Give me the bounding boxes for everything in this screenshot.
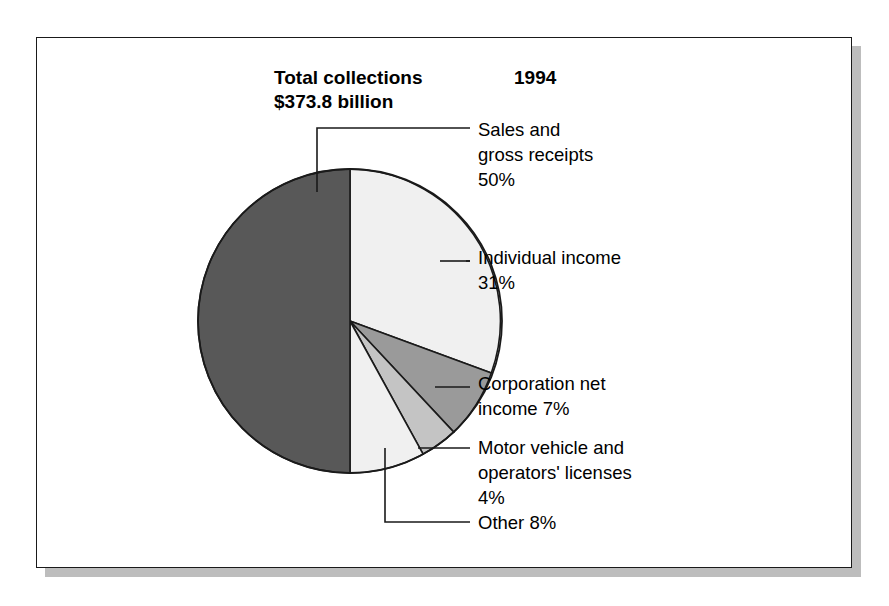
page-title: Total collections$373.8 billion	[274, 66, 423, 114]
callout-individual-line-1: Individual income	[478, 247, 621, 268]
callout-other-line-1: Other 8%	[478, 512, 556, 533]
chart-title-line-1: Total collections	[274, 67, 423, 88]
callout-corporation-line-1: Corporation net	[478, 373, 606, 394]
callout-corporation-line-2: income 7%	[478, 398, 570, 419]
callout-sales-line-1: Sales and	[478, 119, 560, 140]
chart-year-label: 1994	[514, 66, 556, 90]
pie-chart	[0, 0, 889, 606]
pie-slice-sales-gross-receipts	[198, 169, 350, 473]
callout-label-individual-income: Individual income31%	[478, 245, 621, 295]
callout-individual-line-2: 31%	[478, 272, 515, 293]
callout-motor-line-2: operators' licenses	[478, 462, 632, 483]
callout-label-corporation-net-income: Corporation netincome 7%	[478, 371, 606, 421]
callout-label-other: Other 8%	[478, 510, 556, 535]
callout-sales-line-2: gross receipts	[478, 144, 593, 165]
pie-slices	[198, 169, 502, 473]
callout-label-motor-vehicle-licenses: Motor vehicle andoperators' licenses4%	[478, 435, 632, 510]
chart-title-line-2: $373.8 billion	[274, 91, 393, 112]
callout-motor-line-3: 4%	[478, 487, 505, 508]
callout-label-sales-gross-receipts: Sales andgross receipts50%	[478, 117, 593, 192]
figure-root: Total collections$373.8 billion 1994 Sal…	[0, 0, 889, 606]
callout-motor-line-1: Motor vehicle and	[478, 437, 624, 458]
callout-sales-line-3: 50%	[478, 169, 515, 190]
